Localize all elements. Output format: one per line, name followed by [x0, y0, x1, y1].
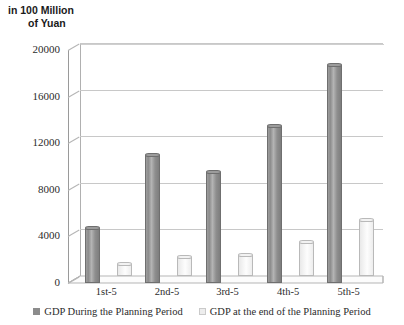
- bar-gdp-end-4th-5: [299, 242, 314, 276]
- bar-body: [85, 228, 100, 283]
- bar-top-cap: [359, 218, 374, 222]
- x-axis-tick-label: 1st-5: [71, 286, 141, 297]
- axis-tick-connector: [68, 183, 80, 190]
- y-axis-tick-label: 8000: [0, 184, 60, 195]
- plot-area: 0400080001200016000200001st-52nd-53rd-54…: [0, 0, 404, 325]
- y-axis-line: [68, 50, 69, 283]
- y-axis-tick-label: 20000: [0, 44, 60, 55]
- bar-body: [177, 257, 192, 276]
- legend-item-gdp-during: GDP During the Planning Period: [33, 306, 182, 317]
- bar-body: [206, 172, 221, 283]
- x-axis-tick-label: 5th-5: [314, 286, 384, 297]
- bar-top-cap: [145, 153, 160, 157]
- bar-gdp-end-1st-5: [117, 264, 132, 276]
- x-axis-tick-label: 3rd-5: [193, 286, 263, 297]
- axis-tick-connector: [68, 230, 80, 237]
- y-axis-tick-label: 12000: [0, 137, 60, 148]
- legend-item-gdp-end: GDP at the end of the Planning Period: [199, 306, 371, 317]
- bar-gdp-end-5th-5: [359, 220, 374, 276]
- bar-gdp-end-3rd-5: [238, 255, 253, 276]
- bar-top-cap: [299, 240, 314, 244]
- bar-top-cap: [267, 124, 282, 128]
- bar-body: [117, 264, 132, 276]
- gridline: [80, 43, 383, 44]
- bar-body: [238, 255, 253, 276]
- legend-label-gdp-during: GDP During the Planning Period: [44, 306, 182, 317]
- bar-body: [267, 126, 282, 283]
- bar-body: [359, 220, 374, 276]
- bar-top-cap: [117, 262, 132, 266]
- bar-gdp-during-3rd-5: [206, 172, 221, 283]
- bar-top-cap: [238, 253, 253, 257]
- x-axis-tick-label: 2nd-5: [132, 286, 202, 297]
- bar-body: [145, 155, 160, 283]
- y-axis-tick-label: 4000: [0, 230, 60, 241]
- axis-tick-connector: [68, 137, 80, 144]
- bar-chart: in 100 Million of Yuan 04000800012000160…: [0, 0, 404, 325]
- bar-gdp-during-2nd-5: [145, 155, 160, 283]
- y-axis-tick-label: 0: [0, 277, 60, 288]
- bar-top-cap: [85, 226, 100, 230]
- bar-gdp-end-2nd-5: [177, 257, 192, 276]
- chart-legend: GDP During the Planning Period GDP at th…: [0, 306, 404, 317]
- bar-gdp-during-5th-5: [327, 65, 342, 283]
- bar-top-cap: [206, 170, 221, 174]
- legend-swatch-icon-dark: [33, 308, 40, 315]
- axis-tick-connector: [68, 277, 80, 284]
- bar-gdp-during-4th-5: [267, 126, 282, 283]
- bar-gdp-during-1st-5: [85, 228, 100, 283]
- bar-body: [327, 65, 342, 283]
- axis-tick-connector: [68, 90, 80, 97]
- bar-top-cap: [327, 63, 342, 67]
- x-axis-tick-label: 4th-5: [253, 286, 323, 297]
- legend-label-gdp-end: GDP at the end of the Planning Period: [210, 306, 371, 317]
- y-axis-tick-label: 16000: [0, 91, 60, 102]
- bar-body: [299, 242, 314, 276]
- legend-swatch-icon-light: [199, 308, 206, 315]
- axis-tick-connector: [68, 44, 80, 51]
